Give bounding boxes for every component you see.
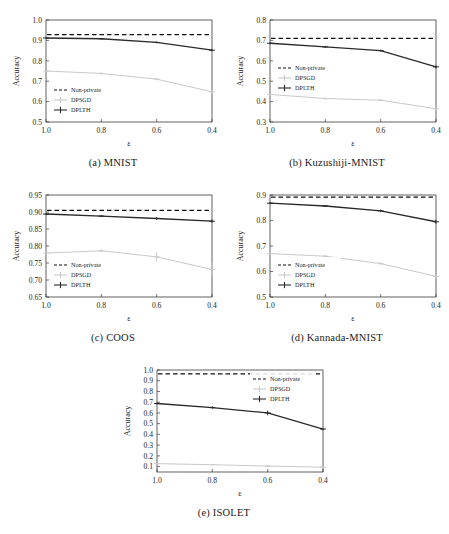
plot-a: 0.50.60.70.80.91.01.00.80.60.4εAccuracyN…: [4, 6, 222, 156]
y-tick-label: 0.7: [257, 36, 267, 45]
chart-a-svg: 0.50.60.70.80.91.01.00.80.60.4εAccuracyN…: [4, 6, 222, 156]
data-point-dpsgd: [378, 262, 384, 266]
y-tick-label: 0.8: [257, 216, 267, 225]
data-point-dpsgd: [265, 466, 271, 467]
legend-label-nonprivate: Non-private: [71, 86, 101, 93]
caption-b: (b) Kuzushiji-MNIST: [228, 157, 446, 168]
x-tick-label: 0.8: [321, 301, 331, 310]
series-line-dplth: [46, 214, 212, 221]
x-tick-label: 0.4: [431, 126, 441, 135]
y-tick-label: 0.6: [257, 57, 267, 66]
x-axis-title: ε: [238, 489, 242, 498]
caption-d: (d) Kannada-MNIST: [228, 332, 446, 343]
panel-e-isolet: 0.10.20.30.40.50.60.70.80.91.01.00.80.60…: [115, 356, 333, 518]
x-tick-label: 0.8: [208, 476, 218, 485]
data-point-dpsgd: [433, 274, 439, 279]
data-point-dplth: [433, 220, 439, 224]
plot-e: 0.10.20.30.40.50.60.70.80.91.01.00.80.60…: [115, 356, 333, 506]
legend-label-nonprivate: Non-private: [71, 261, 101, 268]
x-tick-label: 0.6: [376, 301, 386, 310]
chart-e-svg: 0.10.20.30.40.50.60.70.80.91.01.00.80.60…: [115, 356, 333, 506]
series-line-dpsgd: [157, 464, 323, 468]
x-tick-label: 0.6: [152, 301, 162, 310]
x-axis-title: ε: [351, 139, 355, 148]
y-tick-label: 0.70: [29, 276, 42, 285]
legend: Non-privateDPSGDDPLTH: [51, 257, 117, 290]
legend-label-dplth: DPLTH: [71, 106, 91, 113]
y-axis-title: Accuracy: [236, 56, 245, 87]
legend: Non-privateDPSGDDPLTH: [275, 257, 341, 290]
x-tick-label: 0.4: [431, 301, 441, 310]
data-point-dpsgd: [98, 249, 104, 252]
y-axis-title: Accuracy: [12, 56, 21, 87]
data-point-dpsgd: [209, 263, 215, 275]
legend-label-dpsgd: DPSGD: [71, 271, 92, 278]
x-tick-label: 0.8: [97, 126, 107, 135]
series-line-dplth: [270, 203, 436, 222]
y-tick-label: 0.3: [144, 441, 154, 450]
y-tick-label: 0.4: [257, 97, 267, 106]
x-tick-label: 0.8: [321, 126, 331, 135]
data-point-dpsgd: [267, 252, 273, 255]
data-point-dpsgd: [43, 251, 49, 255]
caption-c: (c) COOS: [4, 332, 222, 343]
legend-label-nonprivate: Non-private: [270, 375, 300, 382]
x-tick-label: 0.6: [152, 126, 162, 135]
y-tick-label: 0.9: [257, 191, 267, 200]
legend-label-dpsgd: DPSGD: [295, 74, 316, 81]
legend: Non-privateDPSGDDPLTH: [51, 82, 117, 115]
y-tick-label: 0.95: [29, 191, 42, 200]
series-line-dplth: [157, 403, 323, 429]
x-tick-label: 1.0: [41, 301, 51, 310]
y-tick-label: 0.80: [29, 242, 42, 251]
panel-d-kannada-mnist: 0.50.60.70.80.91.00.80.60.4εAccuracyNon-…: [228, 181, 446, 343]
data-point-dpsgd: [433, 107, 439, 111]
x-tick-label: 0.6: [263, 476, 273, 485]
x-tick-label: 0.4: [207, 126, 217, 135]
y-axis-title: Accuracy: [12, 231, 21, 262]
data-point-dpsgd: [320, 467, 326, 468]
legend-label-dpsgd: DPSGD: [295, 271, 316, 278]
y-tick-label: 1.0: [144, 366, 154, 375]
y-tick-label: 1.0: [33, 16, 43, 25]
panel-a-mnist: 0.50.60.70.80.91.01.00.80.60.4εAccuracyN…: [4, 6, 222, 168]
y-tick-label: 0.5: [144, 419, 154, 428]
data-point-dplth: [265, 411, 271, 416]
y-tick-label: 0.7: [257, 242, 267, 251]
y-tick-label: 0.8: [257, 16, 267, 25]
x-tick-label: 1.0: [265, 126, 275, 135]
legend-label-dplth: DPLTH: [295, 281, 315, 288]
data-point-dpsgd: [154, 252, 160, 262]
legend: Non-privateDPSGDDPLTH: [275, 60, 341, 93]
y-tick-label: 0.8: [33, 57, 43, 66]
x-tick-label: 0.8: [97, 301, 107, 310]
data-point-dplth: [209, 406, 215, 409]
y-tick-label: 0.9: [33, 36, 43, 45]
chart-d-svg: 0.50.60.70.80.91.00.80.60.4εAccuracyNon-…: [228, 181, 446, 331]
y-tick-label: 0.2: [144, 452, 154, 461]
y-tick-label: 0.6: [33, 97, 43, 106]
series-line-dpsgd: [270, 94, 436, 108]
x-axis-title: ε: [127, 139, 131, 148]
y-tick-label: 0.5: [257, 77, 267, 86]
series-line-dplth: [46, 38, 212, 50]
legend-label-dpsgd: DPSGD: [71, 96, 92, 103]
y-axis-title: Accuracy: [123, 406, 132, 437]
x-tick-label: 1.0: [152, 476, 162, 485]
x-tick-label: 0.4: [207, 301, 217, 310]
x-tick-label: 1.0: [41, 126, 51, 135]
y-tick-label: 0.9: [144, 376, 154, 385]
legend-label-dplth: DPLTH: [71, 281, 91, 288]
y-tick-label: 0.8: [144, 387, 154, 396]
y-axis-title: Accuracy: [236, 231, 245, 262]
data-point-dplth: [154, 217, 160, 220]
legend-label-dplth: DPLTH: [295, 84, 315, 91]
data-point-dplth: [209, 219, 215, 222]
y-tick-label: 0.65: [29, 293, 42, 302]
y-tick-label: 0.90: [29, 208, 42, 217]
y-tick-label: 0.85: [29, 225, 42, 234]
y-tick-label: 0.75: [29, 259, 42, 268]
plot-c: 0.650.700.750.800.850.900.951.00.80.60.4…: [4, 181, 222, 331]
data-point-dpsgd: [322, 97, 328, 99]
x-tick-label: 1.0: [265, 301, 275, 310]
